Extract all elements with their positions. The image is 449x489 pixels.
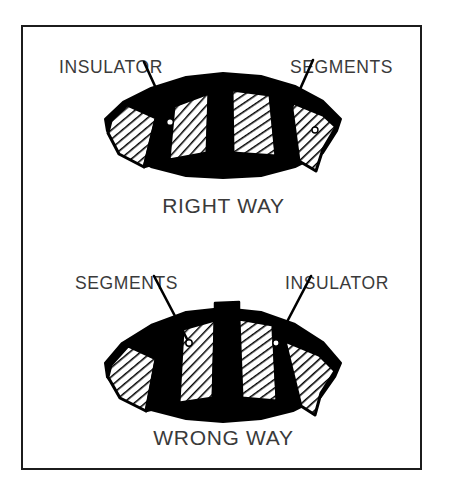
caption-right-way: RIGHT WAY: [23, 195, 424, 216]
commutator-segment-3-wrong: [239, 319, 277, 401]
diagram-commutator-right-way: [23, 57, 424, 202]
diagram-commutator-wrong-way: [23, 267, 424, 427]
figure-root: INSULATOR SEGMENTS: [0, 0, 449, 489]
panel-right-way: INSULATOR SEGMENTS: [23, 27, 424, 249]
caption-wrong-way: WRONG WAY: [23, 427, 424, 448]
commutator-insulator-2-wrong: [213, 302, 242, 398]
figure-border-frame: INSULATOR SEGMENTS: [21, 25, 422, 470]
commutator-insulator-2-right: [207, 90, 233, 153]
panel-wrong-way: SEGMENTS INSULATOR: [23, 249, 424, 470]
